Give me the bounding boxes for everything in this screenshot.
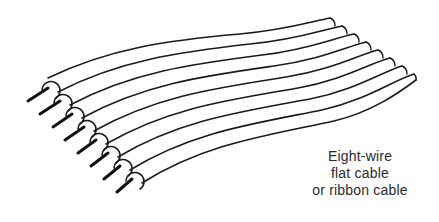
- caption-line-2: flat cable: [300, 165, 420, 182]
- cable-caption: Eight-wire flat cable or ribbon cable: [300, 148, 420, 199]
- caption-line-1: Eight-wire: [300, 148, 420, 165]
- caption-line-3: or ribbon cable: [300, 182, 420, 199]
- exposed-wires: [28, 88, 132, 192]
